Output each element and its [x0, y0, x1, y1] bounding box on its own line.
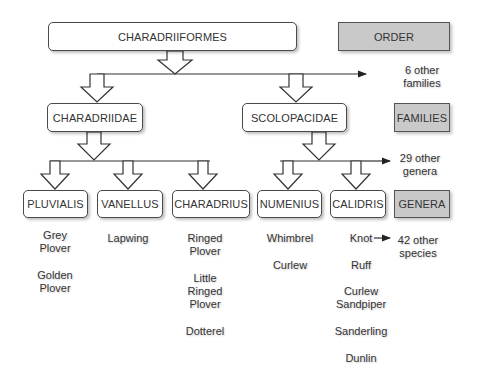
family-label: CHARADRIIDAE	[53, 112, 137, 124]
order-legend-label: ORDER	[374, 31, 414, 43]
order-label: CHARADRIIFORMES	[118, 31, 227, 43]
block-arrow-icon	[280, 74, 312, 102]
family-box-scolopacidae: SCOLOPACIDAE	[242, 103, 347, 132]
genus-box-numenius: NUMENIUS	[257, 190, 322, 218]
species-label: Curlew	[258, 259, 322, 272]
species-label: Grey Plover	[25, 229, 85, 255]
families-legend-box: FAMILIES	[394, 103, 450, 132]
genus-label: CALIDRIS	[332, 198, 384, 210]
genus-label: VANELLUS	[101, 198, 158, 210]
species-label: Golden Plover	[25, 269, 85, 295]
connectors	[0, 0, 477, 377]
genera-legend-box: GENERA	[394, 190, 450, 218]
genus-box-vanellus: VANELLUS	[97, 190, 163, 218]
species-label: Little Ringed Plover	[175, 272, 235, 311]
block-arrow-icon	[303, 132, 335, 160]
genus-box-pluvialis: PLUVIALIS	[23, 190, 88, 218]
other-families-label: 6 other families	[392, 64, 452, 90]
block-arrow-icon	[342, 161, 370, 189]
family-label: SCOLOPACIDAE	[251, 112, 338, 124]
species-label: Curlew Sandpiper	[326, 285, 396, 311]
species-label: Whimbrel	[258, 232, 322, 245]
species-label: Ringed Plover	[175, 232, 235, 258]
species-label: Sanderling	[326, 325, 396, 338]
families-legend-label: FAMILIES	[397, 112, 447, 124]
species-label: Dunlin	[331, 352, 391, 365]
genera-legend-label: GENERA	[398, 198, 445, 210]
other-genera-label: 29 other genera	[392, 152, 448, 178]
block-arrow-icon	[189, 161, 217, 189]
block-arrow-icon	[158, 51, 192, 74]
block-arrow-icon	[114, 161, 142, 189]
genus-label: CHARADRIUS	[174, 198, 248, 210]
genus-box-charadrius: CHARADRIUS	[172, 190, 250, 218]
species-label: Lapwing	[98, 232, 158, 245]
species-label: Dotterel	[175, 325, 235, 338]
order-box: CHARADRIIFORMES	[48, 22, 297, 51]
order-legend-box: ORDER	[338, 22, 450, 51]
other-species-label: 42 other species	[390, 234, 446, 260]
genus-label: NUMENIUS	[260, 198, 319, 210]
family-box-charadriidae: CHARADRIIDAE	[47, 103, 143, 132]
block-arrow-icon	[78, 132, 110, 160]
genus-label: PLUVIALIS	[27, 198, 84, 210]
genus-box-calidris: CALIDRIS	[330, 190, 386, 218]
species-label: Ruff	[331, 259, 391, 272]
species-label: Knot	[331, 232, 391, 245]
block-arrow-icon	[81, 74, 113, 102]
block-arrow-icon	[41, 161, 69, 189]
block-arrow-icon	[274, 161, 302, 189]
